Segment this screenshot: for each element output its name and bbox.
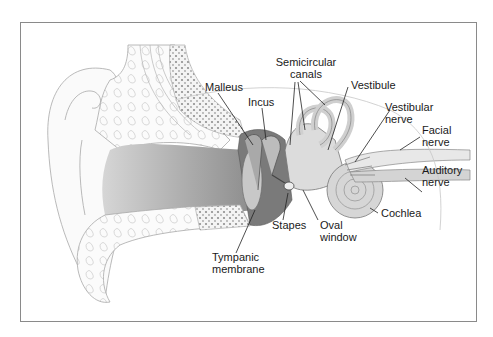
label-facial-nerve: Facial nerve [422,124,451,148]
label-line: Semicircular [262,56,350,68]
label-vestibule: Vestibule [351,79,396,91]
oval-window-shape [284,182,294,190]
label-cochlea: Cochlea [381,207,421,219]
label-stapes: Stapes [272,219,306,231]
label-line: Facial [422,124,451,136]
label-auditory-nerve: Auditory nerve [422,164,462,188]
ear-illustration [0,0,493,337]
label-line: nerve [422,136,451,148]
label-line: window [320,231,357,243]
label-line: canals [262,68,350,80]
label-line: Oval [320,219,357,231]
label-semicircular-canals: Semicircular canals [262,56,350,80]
label-malleus: Malleus [205,81,243,93]
label-oval-window: Oval window [320,219,357,243]
label-line: Auditory [422,164,462,176]
label-line: Vestibular [385,101,433,113]
label-line: nerve [422,176,462,188]
label-line: Tympanic [212,251,265,263]
label-tympanic-membrane: Tympanic membrane [212,251,265,275]
label-line: membrane [212,263,265,275]
label-vestibular-nerve: Vestibular nerve [385,101,433,125]
temporal-bone-lower [195,205,250,230]
label-incus: Incus [248,96,274,108]
